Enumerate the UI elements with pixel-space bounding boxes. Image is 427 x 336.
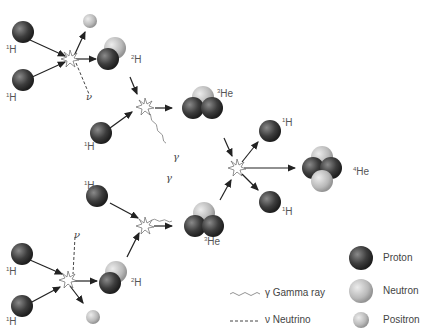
label-1h: 1H (84, 180, 95, 191)
label-2h: 2H (131, 277, 142, 288)
legend-neutron: Neutron (383, 285, 419, 296)
gamma-wave-icon (230, 293, 260, 296)
legend-neutrino: ν Neutrino (265, 314, 311, 325)
proton (259, 120, 281, 142)
label-2h: 2H (131, 54, 142, 65)
positron (83, 14, 97, 28)
proton (12, 21, 34, 43)
label-1h: 1H (6, 266, 17, 277)
gamma-label: γ (173, 151, 179, 162)
neutrino-label: ν (74, 229, 80, 240)
proton (97, 48, 119, 70)
positron (86, 310, 100, 324)
proton (259, 191, 281, 213)
neutron (311, 170, 333, 192)
proton (201, 97, 223, 119)
label-3he: 3He (204, 236, 220, 247)
label-1h: 1H (6, 316, 17, 327)
label-4he: 4He (353, 166, 369, 177)
proton (202, 215, 224, 237)
label-1h: 1H (84, 141, 95, 152)
label-1h: 1H (282, 206, 293, 217)
neutrino-label: ν (86, 91, 92, 102)
proton (12, 69, 34, 91)
label-1h: 1H (6, 44, 17, 55)
neutron-legend-icon (349, 279, 373, 303)
positron-legend-icon (353, 312, 369, 328)
proton (11, 243, 33, 265)
proton (182, 97, 204, 119)
gamma-label: γ (166, 172, 172, 183)
legend-positron: Positron (383, 314, 420, 325)
reaction-3 (220, 120, 342, 213)
label-1h: 1H (282, 117, 293, 128)
label-3he: 3He (217, 88, 233, 99)
legend-gamma-ray: γ Gamma ray (265, 287, 325, 298)
reaction-1-top (12, 14, 126, 94)
reaction-2-top (90, 77, 223, 144)
proton (11, 295, 33, 317)
proton (99, 272, 121, 294)
legend-proton: Proton (383, 252, 412, 263)
proton-legend-icon (349, 246, 373, 270)
label-1h: 1H (6, 92, 17, 103)
reaction-1-bottom (11, 237, 127, 324)
